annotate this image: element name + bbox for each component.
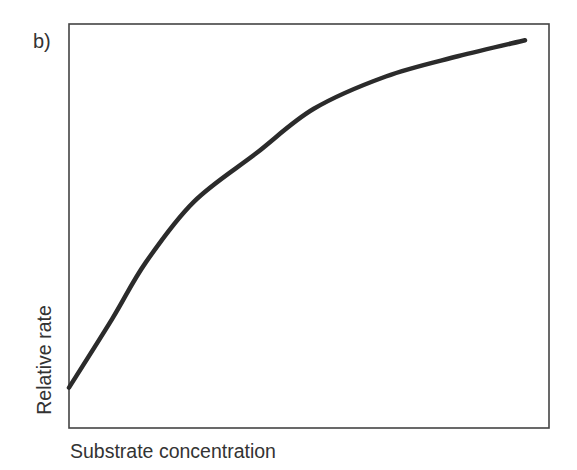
y-axis-label: Relative rate (33, 305, 56, 414)
x-axis-label: Substrate concentration (70, 440, 276, 463)
plot-frame (69, 24, 549, 428)
chart-plot-area (0, 0, 577, 470)
panel-label: b) (33, 30, 51, 53)
rate-curve-line (69, 40, 525, 387)
